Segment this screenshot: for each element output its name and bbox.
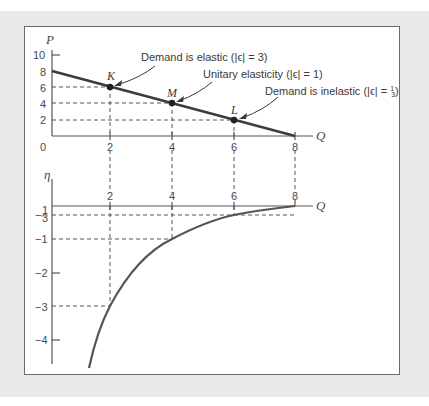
- eta-tick-minus-third: − 1 3: [35, 204, 48, 224]
- p-tick-10: 10: [33, 49, 45, 61]
- point-k-label: K: [106, 69, 116, 83]
- eta-tick-minus-4: −4: [35, 334, 48, 346]
- point-l: [231, 117, 238, 124]
- annotation-inelastic: Demand is inelastic (|ϵ| = 13): [265, 85, 399, 98]
- elasticity-figure: P Q 10 8 6 4 2 0 2 4 6 8 K M L Demand is…: [0, 0, 429, 406]
- point-k: [107, 84, 114, 91]
- svg-text:3: 3: [42, 212, 48, 224]
- p-tick-2: 2: [40, 114, 46, 126]
- p-axis-label: P: [45, 32, 54, 47]
- q-tick-2-lower: 2: [107, 190, 113, 202]
- point-m: [169, 100, 176, 107]
- arrow-elastic: [117, 66, 155, 85]
- upper-plot: P Q 10 8 6 4 2 0 2 4 6 8 K M L Demand is…: [33, 32, 399, 193]
- q-tick-6-upper: 6: [231, 141, 237, 153]
- eta-tick-minus-2: −2: [35, 267, 48, 279]
- lower-plot: η Q 2 4 6 8 − 1 3 −1 −2 −3 −4: [35, 167, 326, 368]
- annotation-elastic: Demand is elastic (|ϵ| = 3): [141, 51, 267, 63]
- lower-axes: [52, 179, 313, 364]
- eta-axis-label: η: [44, 167, 50, 182]
- q-tick-6-lower: 6: [231, 190, 237, 202]
- lower-guides: [52, 206, 295, 306]
- q-axis-label-lower: Q: [316, 198, 326, 213]
- q-axis-label-upper: Q: [316, 128, 326, 143]
- p-tick-4: 4: [40, 98, 46, 110]
- origin-label: 0: [40, 141, 46, 153]
- q-tick-4-upper: 4: [169, 141, 175, 153]
- p-tick-6: 6: [40, 82, 46, 94]
- elasticity-curve: [89, 206, 295, 368]
- eta-tick-minus-1: −1: [35, 233, 48, 245]
- eta-tick-minus-3: −3: [35, 301, 48, 313]
- q-tick-8-lower: 8: [292, 190, 298, 202]
- q-tick-4-lower: 4: [169, 190, 175, 202]
- svg-text:−: −: [35, 209, 41, 221]
- arrow-heads: [114, 80, 247, 119]
- q-tick-2-upper: 2: [107, 141, 113, 153]
- arrow-inelastic: [242, 97, 278, 118]
- annotation-unitary: Unitary elasticity (|ϵ| = 1): [203, 68, 323, 80]
- point-m-label: M: [166, 86, 178, 100]
- arrow-unitary: [179, 82, 212, 101]
- q-tick-8-upper: 8: [292, 141, 298, 153]
- p-tick-8: 8: [40, 66, 46, 78]
- point-l-label: L: [230, 103, 238, 117]
